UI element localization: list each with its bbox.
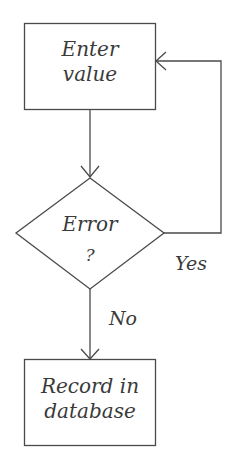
enter-line1: Enter — [24, 37, 156, 62]
record-database-label: Record in database — [24, 374, 156, 424]
yes-edge-label: Yes — [170, 252, 212, 276]
enter-value-label: Enter value — [24, 37, 156, 87]
no-edge-label: No — [104, 307, 142, 331]
error-question-mark: ? — [70, 245, 110, 266]
record-line2: database — [24, 399, 156, 424]
error-line1: Error — [30, 212, 150, 237]
error-label: Error — [30, 212, 150, 237]
connector-yes-loop — [156, 61, 221, 233]
enter-line2: value — [24, 62, 156, 87]
record-line1: Record in — [24, 374, 156, 399]
